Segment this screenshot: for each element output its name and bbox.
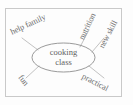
center-node-label: cooking class <box>32 47 95 67</box>
spoke-fun <box>26 66 39 78</box>
center-label-line1: cooking <box>32 47 95 57</box>
word-web-diagram: cooking class help family nutrition new … <box>0 0 133 105</box>
center-label-line2: class <box>32 57 95 67</box>
